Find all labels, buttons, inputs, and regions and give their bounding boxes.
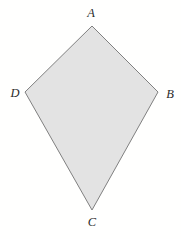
vertex-label-c: C	[88, 216, 96, 229]
geometry-figure-canvas: A B C D	[0, 0, 181, 239]
vertex-label-a: A	[87, 7, 95, 20]
quadrilateral-abcd-shape	[25, 26, 158, 210]
vertex-label-b: B	[166, 88, 174, 101]
quadrilateral-abcd-svg	[0, 0, 181, 239]
vertex-label-d: D	[10, 87, 19, 100]
